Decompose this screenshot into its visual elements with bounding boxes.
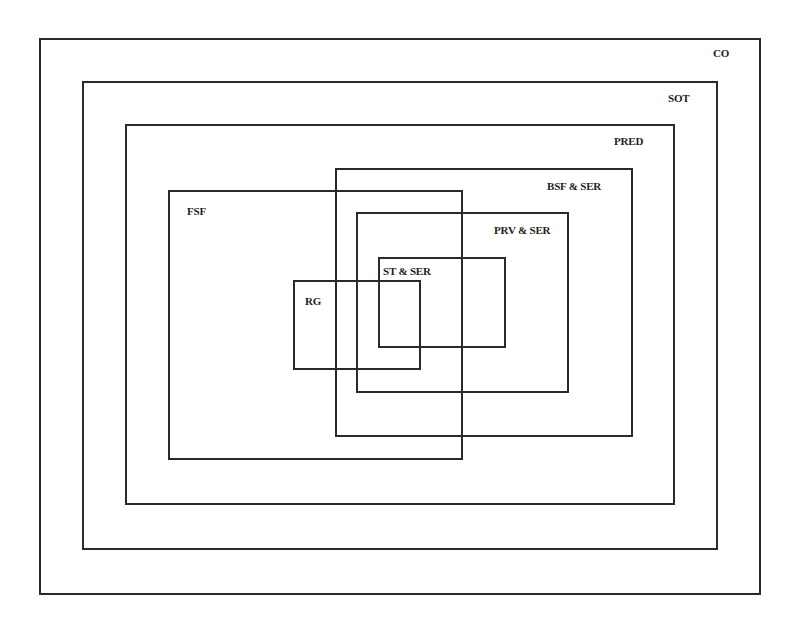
nested-sets-diagram: CO SOT PRED BSF & SER FSF PRV & SER ST &…	[0, 0, 800, 628]
set-rg-label: RG	[305, 295, 321, 307]
set-sot-label: SOT	[668, 92, 689, 104]
set-fsf-label: FSF	[187, 205, 206, 217]
set-co-label: CO	[713, 47, 729, 59]
set-bsf-ser-label: BSF & SER	[547, 180, 601, 192]
set-prv-ser-label: PRV & SER	[494, 224, 550, 236]
set-pred-label: PRED	[614, 135, 643, 147]
set-rg-box	[293, 280, 421, 370]
set-st-ser-label: ST & SER	[383, 265, 431, 277]
